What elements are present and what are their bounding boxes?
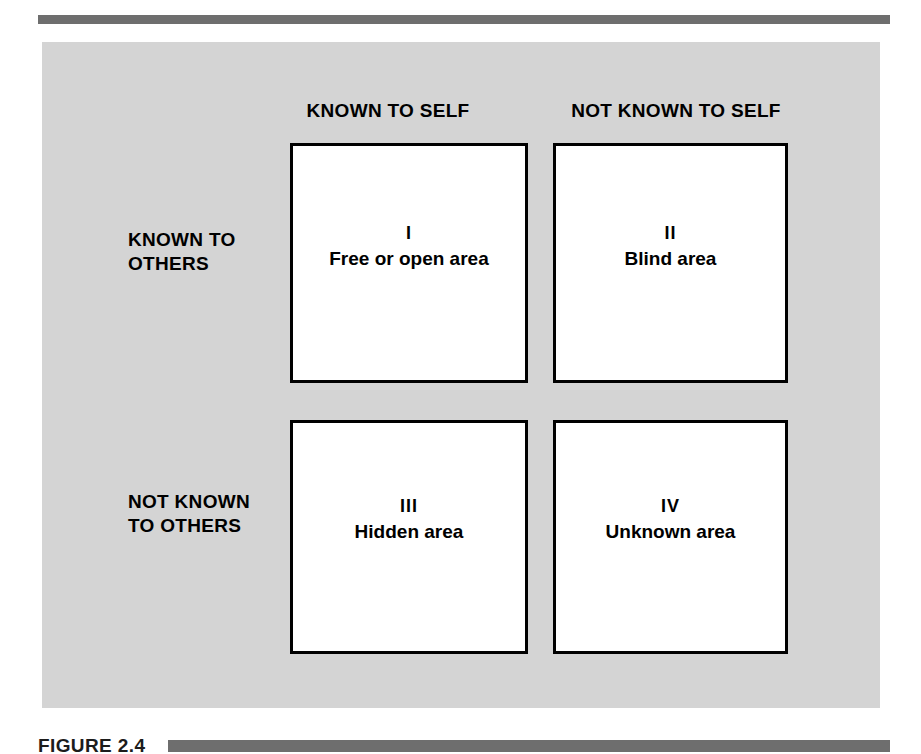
row-header-known-to-others: KNOWN TO OTHERS bbox=[128, 228, 236, 276]
row-header-not-known-to-others-line2: TO OTHERS bbox=[128, 514, 250, 538]
row-header-known-to-others-line2: OTHERS bbox=[128, 252, 236, 276]
quadrant-unknown-area: IV Unknown area bbox=[553, 420, 788, 654]
quadrant-hidden-area: III Hidden area bbox=[290, 420, 528, 654]
quadrant-4-title: Unknown area bbox=[556, 519, 785, 545]
quadrant-4-content: IV Unknown area bbox=[556, 495, 785, 545]
quadrant-4-numeral: IV bbox=[556, 495, 785, 517]
column-header-not-known-to-self: NOT KNOWN TO SELF bbox=[536, 100, 816, 122]
quadrant-free-or-open-area: I Free or open area bbox=[290, 143, 528, 383]
caption-rule bbox=[168, 740, 890, 752]
quadrant-blind-area: II Blind area bbox=[553, 143, 788, 383]
quadrant-1-title: Free or open area bbox=[293, 246, 525, 272]
quadrant-2-numeral: II bbox=[556, 222, 785, 244]
figure-caption-row: FIGURE 2.4 bbox=[38, 735, 890, 754]
row-header-not-known-to-others: NOT KNOWN TO OTHERS bbox=[128, 490, 250, 538]
quadrant-3-numeral: III bbox=[293, 495, 525, 517]
quadrant-1-content: I Free or open area bbox=[293, 222, 525, 272]
row-header-known-to-others-line1: KNOWN TO bbox=[128, 228, 236, 252]
quadrant-2-title: Blind area bbox=[556, 246, 785, 272]
top-rule bbox=[38, 15, 890, 24]
quadrant-3-title: Hidden area bbox=[293, 519, 525, 545]
quadrant-1-numeral: I bbox=[293, 222, 525, 244]
row-header-not-known-to-others-line1: NOT KNOWN bbox=[128, 490, 250, 514]
quadrant-3-content: III Hidden area bbox=[293, 495, 525, 545]
quadrant-2-content: II Blind area bbox=[556, 222, 785, 272]
column-header-known-to-self: KNOWN TO SELF bbox=[248, 100, 528, 122]
figure-caption-label: FIGURE 2.4 bbox=[38, 735, 145, 754]
